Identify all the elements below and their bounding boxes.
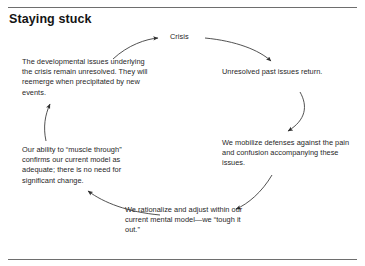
node-rationalize-and-adjust: We rationalize and adjust within our cur… <box>125 205 245 236</box>
arrow-mobilize-to-rationalize <box>236 175 272 209</box>
staying-stuck-figure: Staying stuck Crisi <box>0 0 365 266</box>
arrow-unresolved-to-mobilize <box>288 92 304 131</box>
figure-bottom-rule <box>8 259 357 260</box>
arrow-ability-to-developmental <box>45 104 50 141</box>
arrow-developmental-to-crisis <box>113 38 158 59</box>
node-mobilize-defenses: We mobilize defenses against the pain an… <box>222 138 350 169</box>
node-unresolved-past-issues: Unresolved past issues return. <box>222 67 352 77</box>
node-crisis: Crisis <box>170 32 230 42</box>
node-muscle-through: Our ability to “muscle through” confirms… <box>22 145 150 186</box>
node-developmental-issues: The developmental issues underlying the … <box>22 57 155 98</box>
